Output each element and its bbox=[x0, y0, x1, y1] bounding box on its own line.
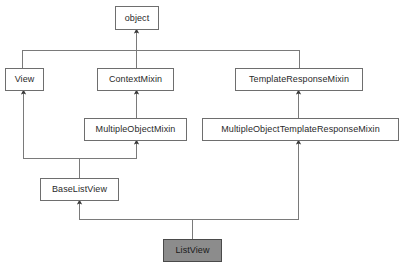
class-node-label: object bbox=[121, 14, 154, 23]
edge-top-bus bbox=[23, 51, 300, 69]
class-node-label: View bbox=[11, 75, 39, 84]
class-node-label: BaseListView bbox=[48, 185, 111, 194]
class-node-multiple-object-template-response-mixin[interactable]: MultipleObjectTemplateResponseMixin bbox=[202, 118, 399, 141]
class-node-multiple-object-mixin[interactable]: MultipleObjectMixin bbox=[84, 118, 187, 141]
class-node-label: TemplateResponseMixin bbox=[245, 75, 353, 84]
class-node-list-view[interactable]: ListView bbox=[163, 239, 222, 262]
class-node-label: MultipleObjectTemplateResponseMixin bbox=[217, 125, 384, 134]
class-node-template-response-mixin[interactable]: TemplateResponseMixin bbox=[235, 68, 363, 91]
class-diagram: object View ContextMixin TemplateRespons… bbox=[0, 0, 402, 268]
edge-list-view-to-motrm bbox=[193, 142, 299, 220]
class-node-label: MultipleObjectMixin bbox=[92, 125, 180, 134]
class-node-label: ListView bbox=[171, 246, 213, 255]
class-node-context-mixin[interactable]: ContextMixin bbox=[97, 68, 174, 91]
class-node-base-list-view[interactable]: BaseListView bbox=[40, 178, 119, 201]
class-node-label: ContextMixin bbox=[105, 75, 166, 84]
edge-list-view-to-base-list-view bbox=[80, 202, 193, 239]
edge-base-list-view-to-multiple-object-mixin bbox=[80, 142, 137, 159]
class-node-object[interactable]: object bbox=[115, 6, 159, 30]
edge-base-list-view-to-view bbox=[24, 92, 80, 178]
class-node-view[interactable]: View bbox=[5, 68, 44, 91]
